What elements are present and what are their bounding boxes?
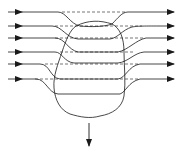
- streamline-4-body: [22, 52, 160, 63]
- streamline-1-body: [22, 12, 160, 27]
- streamline-diagram: [0, 0, 187, 149]
- dashed-reference-lines: [35, 12, 145, 79]
- streamline-6-body: [22, 79, 160, 94]
- streamline-5-body: [22, 64, 160, 79]
- streamline-2-body: [22, 26, 160, 39]
- body-outline: [54, 21, 125, 117]
- streamlines: [8, 12, 174, 94]
- streamline-3-body: [22, 38, 160, 52]
- diagram-canvas: [0, 0, 187, 149]
